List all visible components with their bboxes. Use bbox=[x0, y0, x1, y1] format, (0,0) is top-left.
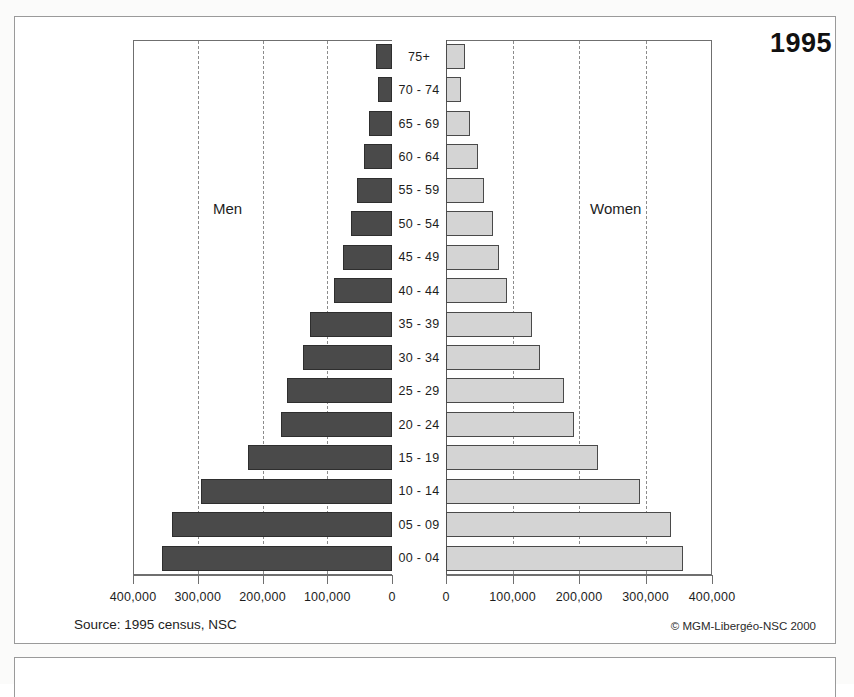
bar-row-men bbox=[133, 241, 392, 274]
bar-row-women bbox=[446, 274, 712, 307]
axis-label-men: 0 bbox=[388, 590, 395, 604]
axis-label-women: 0 bbox=[442, 590, 449, 604]
age-group-label: 55 - 59 bbox=[392, 174, 446, 207]
bar-row-women bbox=[446, 475, 712, 508]
bar-row-women bbox=[446, 308, 712, 341]
bar-men-40to44 bbox=[334, 278, 392, 303]
axis-tick-men bbox=[198, 575, 199, 584]
bar-men-60to64 bbox=[364, 144, 392, 169]
series-caption-women: Women bbox=[590, 200, 641, 217]
bar-women-20to24 bbox=[446, 412, 574, 437]
bar-women-60to64 bbox=[446, 144, 478, 169]
bar-women-10to14 bbox=[446, 479, 640, 504]
bar-men-05to09 bbox=[172, 512, 392, 537]
bar-men-45to49 bbox=[343, 245, 392, 270]
bar-row-men bbox=[133, 341, 392, 374]
bar-row-men bbox=[133, 508, 392, 541]
axis-label-women: 300,000 bbox=[622, 590, 669, 604]
bar-row-women bbox=[446, 341, 712, 374]
bar-row-women bbox=[446, 241, 712, 274]
age-group-label: 70 - 74 bbox=[392, 73, 446, 106]
axis-label-women: 400,000 bbox=[689, 590, 736, 604]
axis-label-men: 400,000 bbox=[110, 590, 157, 604]
bar-row-women bbox=[446, 207, 712, 240]
axis-tick-women bbox=[446, 575, 447, 584]
axis-tick-women bbox=[513, 575, 514, 584]
bar-men-10to14 bbox=[201, 479, 392, 504]
bar-row-women bbox=[446, 374, 712, 407]
bar-row-women bbox=[446, 40, 712, 73]
bar-row-women bbox=[446, 107, 712, 140]
series-caption-men: Men bbox=[213, 200, 242, 217]
bar-row-men bbox=[133, 542, 392, 575]
bar-row-women bbox=[446, 140, 712, 173]
bar-men-30to34 bbox=[303, 345, 392, 370]
axis-tick-women bbox=[712, 575, 713, 584]
age-group-axis: 75+70 - 7465 - 6960 - 6455 - 5950 - 5445… bbox=[392, 40, 446, 575]
bar-men-65to69 bbox=[369, 111, 392, 136]
axis-tick-men bbox=[263, 575, 264, 584]
bar-row-men bbox=[133, 174, 392, 207]
axis-label-men: 200,000 bbox=[239, 590, 286, 604]
axis-tick-men bbox=[133, 575, 134, 584]
bar-women-15to19 bbox=[446, 445, 598, 470]
bar-men-70to74 bbox=[378, 77, 392, 102]
bar-row-men bbox=[133, 40, 392, 73]
bar-women-55to59 bbox=[446, 178, 484, 203]
bar-row-women bbox=[446, 73, 712, 106]
bar-women-70to74 bbox=[446, 77, 461, 102]
bar-women-00to04 bbox=[446, 546, 683, 571]
bar-series-women bbox=[446, 40, 712, 575]
bar-women-25to29 bbox=[446, 378, 564, 403]
age-group-label: 35 - 39 bbox=[392, 308, 446, 341]
bar-row-women bbox=[446, 542, 712, 575]
axis-label-women: 100,000 bbox=[489, 590, 536, 604]
page-title: 1995 bbox=[770, 28, 832, 59]
bar-row-women bbox=[446, 174, 712, 207]
bar-row-men bbox=[133, 207, 392, 240]
bar-men-20to24 bbox=[281, 412, 392, 437]
axis-tick-men bbox=[327, 575, 328, 584]
bar-men-75 bbox=[376, 44, 392, 69]
bar-women-65to69 bbox=[446, 111, 470, 136]
age-group-label: 10 - 14 bbox=[392, 475, 446, 508]
bar-women-30to34 bbox=[446, 345, 540, 370]
bar-series-men bbox=[133, 40, 392, 575]
bar-women-05to09 bbox=[446, 512, 671, 537]
bar-women-45to49 bbox=[446, 245, 499, 270]
bar-women-75 bbox=[446, 44, 465, 69]
bar-men-35to39 bbox=[310, 312, 392, 337]
bar-row-men bbox=[133, 73, 392, 106]
source-note: Source: 1995 census, NSC bbox=[74, 617, 237, 632]
age-group-label: 75+ bbox=[392, 40, 446, 73]
credit-note: © MGM-Libergéo-NSC 2000 bbox=[671, 620, 816, 632]
panel-below bbox=[14, 657, 836, 697]
bar-row-men bbox=[133, 408, 392, 441]
axis-label-women: 200,000 bbox=[556, 590, 603, 604]
age-group-label: 05 - 09 bbox=[392, 508, 446, 541]
bar-women-50to54 bbox=[446, 211, 493, 236]
bar-row-women bbox=[446, 408, 712, 441]
age-group-label: 15 - 19 bbox=[392, 441, 446, 474]
bar-men-50to54 bbox=[351, 211, 392, 236]
bar-row-women bbox=[446, 508, 712, 541]
bar-men-55to59 bbox=[357, 178, 392, 203]
bar-men-25to29 bbox=[287, 378, 392, 403]
bar-row-men bbox=[133, 274, 392, 307]
age-group-label: 65 - 69 bbox=[392, 107, 446, 140]
bar-row-men bbox=[133, 475, 392, 508]
bar-men-00to04 bbox=[162, 546, 392, 571]
bar-row-women bbox=[446, 441, 712, 474]
bar-women-35to39 bbox=[446, 312, 532, 337]
bar-row-men bbox=[133, 374, 392, 407]
age-group-label: 25 - 29 bbox=[392, 374, 446, 407]
bar-men-15to19 bbox=[248, 445, 392, 470]
age-group-label: 00 - 04 bbox=[392, 542, 446, 575]
axis-tick-men bbox=[392, 575, 393, 584]
axis-tick-women bbox=[579, 575, 580, 584]
age-group-label: 45 - 49 bbox=[392, 241, 446, 274]
age-group-label: 50 - 54 bbox=[392, 207, 446, 240]
age-group-label: 60 - 64 bbox=[392, 140, 446, 173]
bar-row-men bbox=[133, 107, 392, 140]
